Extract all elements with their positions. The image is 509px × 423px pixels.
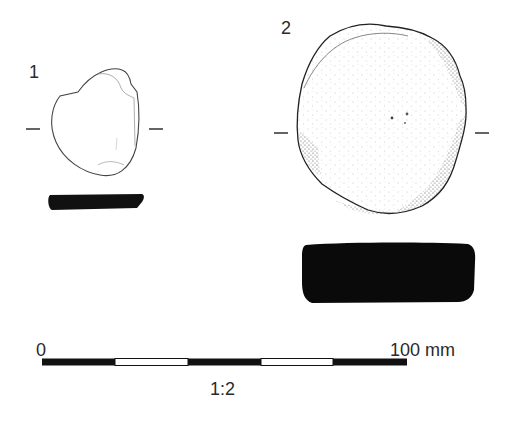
object-1-number: 1 — [29, 63, 39, 81]
scale-ratio-label: 1:2 — [210, 380, 235, 398]
scale-start-label: 0 — [36, 341, 46, 359]
object-2-plan — [274, 24, 489, 214]
object-2-section — [302, 243, 475, 303]
scale-bar — [42, 359, 407, 366]
object-1-section — [48, 194, 144, 210]
object-2-number: 2 — [281, 19, 291, 37]
object-1-plan — [26, 69, 163, 176]
scale-end-label: 100 mm — [390, 341, 455, 359]
